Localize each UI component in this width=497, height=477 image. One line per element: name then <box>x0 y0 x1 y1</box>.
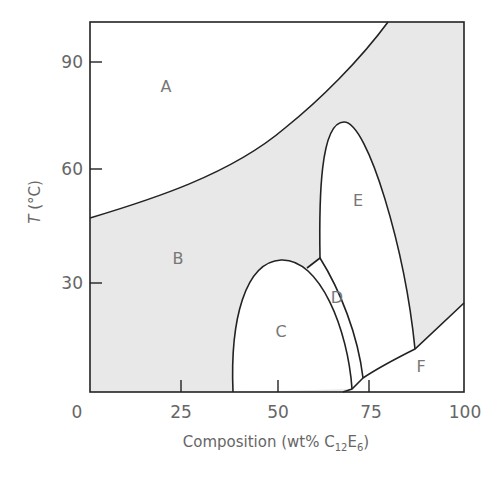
x-tick-label-75: 75 <box>360 402 382 422</box>
x-tick-label-0: 0 <box>72 402 83 422</box>
y-axis-title: T (°C) <box>26 180 44 224</box>
x-tick-label-25: 25 <box>170 402 192 422</box>
region-label-b: B <box>173 249 184 268</box>
y-tick-label-90: 90 <box>61 52 83 72</box>
region-label-c: C <box>275 322 286 341</box>
x-axis-title: Composition (wt% C12E6) <box>183 433 369 453</box>
x-tick-label-50: 50 <box>267 402 289 422</box>
y-tick-label-30: 30 <box>61 273 83 293</box>
region-label-e: E <box>353 191 363 210</box>
region-label-d: D <box>331 288 343 307</box>
x-tick-label-100: 100 <box>449 402 481 422</box>
region-label-a: A <box>161 77 172 96</box>
region-label-f: F <box>416 357 425 376</box>
y-tick-label-60: 60 <box>61 159 83 179</box>
phase-diagram: 90 60 30 0 25 50 75 100 Composition (wt%… <box>0 0 497 477</box>
